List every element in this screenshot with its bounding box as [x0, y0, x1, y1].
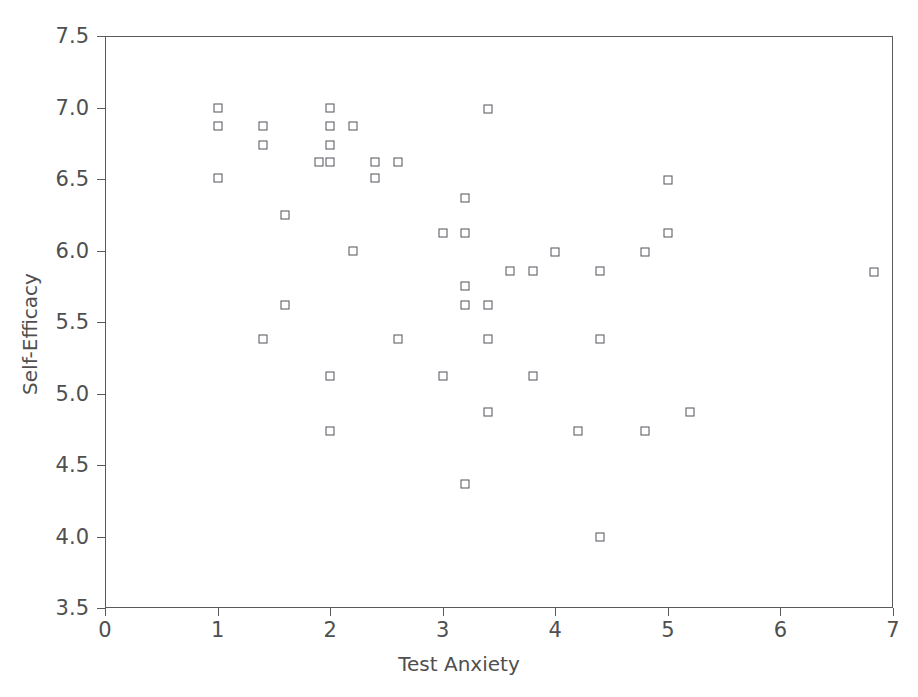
y-tick-mark	[97, 608, 105, 609]
x-tick-label: 0	[75, 620, 135, 641]
x-tick-mark	[780, 608, 781, 616]
scatter-plot-figure: 3.54.04.55.05.56.06.57.07.5 01234567 Tes…	[0, 0, 918, 697]
y-tick-mark	[97, 537, 105, 538]
x-tick-label: 2	[300, 620, 360, 641]
x-tick-mark	[555, 608, 556, 616]
y-tick-mark	[97, 36, 105, 37]
y-tick-mark	[97, 465, 105, 466]
y-axis-title: Self-Efficacy	[18, 34, 42, 634]
x-tick-mark	[668, 608, 669, 616]
y-tick-mark	[97, 322, 105, 323]
y-tick-mark	[97, 251, 105, 252]
x-tick-label: 1	[188, 620, 248, 641]
plot-area-frame	[105, 36, 893, 608]
x-tick-label: 7	[863, 620, 918, 641]
x-tick-mark	[218, 608, 219, 616]
x-axis-title: Test Anxiety	[0, 652, 918, 676]
x-tick-label: 4	[525, 620, 585, 641]
x-tick-mark	[893, 608, 894, 616]
x-tick-label: 5	[638, 620, 698, 641]
x-tick-label: 3	[413, 620, 473, 641]
x-tick-mark	[105, 608, 106, 616]
y-tick-mark	[97, 394, 105, 395]
y-tick-mark	[97, 179, 105, 180]
x-tick-label: 6	[750, 620, 810, 641]
y-tick-mark	[97, 108, 105, 109]
x-tick-mark	[443, 608, 444, 616]
x-tick-mark	[330, 608, 331, 616]
